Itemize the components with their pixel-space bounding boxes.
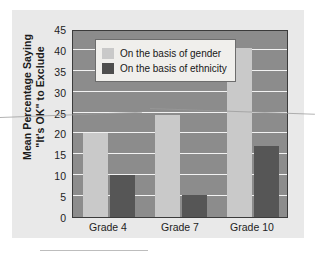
y-axis-tick-label: 0 [40,213,66,224]
legend-swatch-ethnicity-icon [102,63,114,74]
y-axis-tick-label: 5 [40,192,66,203]
y-axis-tick-labels: 051015202530354045 [40,24,66,218]
y-axis-title-line-1: Mean Percentage Saying [21,17,34,177]
legend-item-gender: On the basis of gender [102,46,227,60]
y-axis-tick-label: 15 [40,150,66,161]
x-axis-tick-label: Grade 4 [89,221,127,233]
y-axis-tick-label: 20 [40,129,66,140]
x-axis-tick-label: Grade 10 [230,221,274,233]
y-axis-tick-label: 45 [40,25,66,36]
y-axis-tick-label: 10 [40,171,66,182]
legend-label-gender: On the basis of gender [120,48,221,59]
y-axis-tick-label: 30 [40,87,66,98]
x-axis-tick-label: Grade 7 [161,221,199,233]
bar [155,115,180,217]
figure: Mean Percentage Saying "It's OK" to Excl… [0,0,315,262]
plot-area: On the basis of gender On the basis of e… [72,30,288,218]
footer-rule [40,250,148,251]
y-axis-tick-label: 40 [40,45,66,56]
x-axis-tick-labels: Grade 4Grade 7Grade 10 [72,221,288,237]
bar [182,195,207,217]
y-axis-tick-label: 25 [40,108,66,119]
bar [83,133,108,217]
y-axis-tick-label: 35 [40,66,66,77]
legend-swatch-gender-icon [102,48,114,59]
bar [254,146,279,217]
legend: On the basis of gender On the basis of e… [95,39,236,82]
legend-label-ethnicity: On the basis of ethnicity [120,63,227,74]
legend-item-ethnicity: On the basis of ethnicity [102,61,227,75]
bar [110,175,135,217]
